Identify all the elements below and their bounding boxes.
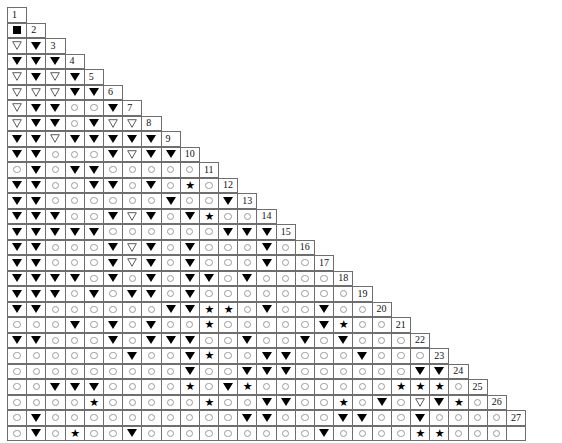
chart-cell[interactable] xyxy=(276,348,296,364)
chart-cell[interactable] xyxy=(161,348,181,364)
chart-cell[interactable] xyxy=(141,286,161,302)
chart-cell[interactable] xyxy=(218,348,238,364)
chart-cell[interactable] xyxy=(237,364,257,380)
chart-cell[interactable] xyxy=(372,395,392,411)
chart-cell[interactable] xyxy=(103,209,123,225)
chart-cell[interactable] xyxy=(65,333,85,349)
chart-cell[interactable] xyxy=(84,209,104,225)
chart-cell[interactable]: ★ xyxy=(180,178,200,194)
chart-cell[interactable] xyxy=(391,348,411,364)
chart-cell[interactable] xyxy=(122,286,142,302)
chart-cell[interactable] xyxy=(26,348,46,364)
chart-cell[interactable] xyxy=(180,317,200,333)
chart-cell[interactable] xyxy=(45,395,65,411)
chart-cell[interactable] xyxy=(237,348,257,364)
chart-cell[interactable] xyxy=(276,271,296,287)
chart-cell[interactable] xyxy=(26,271,46,287)
chart-cell[interactable] xyxy=(199,255,219,271)
chart-cell[interactable] xyxy=(26,209,46,225)
chart-cell[interactable] xyxy=(391,395,411,411)
chart-cell[interactable] xyxy=(84,302,104,318)
chart-cell[interactable] xyxy=(256,395,276,411)
chart-cell[interactable] xyxy=(237,317,257,333)
chart-cell[interactable] xyxy=(26,317,46,333)
chart-cell[interactable] xyxy=(256,348,276,364)
chart-cell[interactable] xyxy=(7,69,27,85)
chart-cell[interactable] xyxy=(103,224,123,240)
chart-cell[interactable] xyxy=(180,271,200,287)
chart-cell[interactable] xyxy=(276,395,296,411)
chart-cell[interactable] xyxy=(103,333,123,349)
chart-cell[interactable] xyxy=(180,209,200,225)
chart-cell[interactable] xyxy=(7,23,27,39)
chart-cell[interactable] xyxy=(7,317,27,333)
chart-cell[interactable] xyxy=(352,333,372,349)
chart-cell[interactable] xyxy=(141,178,161,194)
chart-cell[interactable] xyxy=(26,302,46,318)
chart-cell[interactable] xyxy=(45,69,65,85)
chart-cell[interactable] xyxy=(65,193,85,209)
chart-cell[interactable] xyxy=(26,147,46,163)
chart-cell[interactable] xyxy=(45,364,65,380)
chart-cell[interactable] xyxy=(103,240,123,256)
chart-cell[interactable] xyxy=(429,395,449,411)
chart-cell[interactable] xyxy=(7,395,27,411)
chart-cell[interactable] xyxy=(448,410,468,426)
chart-cell[interactable] xyxy=(237,333,257,349)
chart-cell[interactable] xyxy=(26,178,46,194)
chart-cell[interactable] xyxy=(103,410,123,426)
chart-cell[interactable] xyxy=(218,379,238,395)
chart-cell[interactable] xyxy=(410,348,430,364)
chart-cell[interactable] xyxy=(45,54,65,70)
chart-cell[interactable] xyxy=(237,255,257,271)
chart-cell[interactable] xyxy=(7,410,27,426)
chart-cell[interactable] xyxy=(84,193,104,209)
chart-cell[interactable] xyxy=(218,224,238,240)
chart-cell[interactable] xyxy=(333,410,353,426)
chart-cell[interactable] xyxy=(122,317,142,333)
chart-cell[interactable] xyxy=(352,364,372,380)
chart-cell[interactable] xyxy=(314,302,334,318)
chart-cell[interactable] xyxy=(314,286,334,302)
chart-cell[interactable] xyxy=(84,131,104,147)
chart-cell[interactable] xyxy=(372,410,392,426)
chart-cell[interactable] xyxy=(352,410,372,426)
chart-cell[interactable] xyxy=(295,395,315,411)
chart-cell[interactable] xyxy=(122,395,142,411)
chart-cell[interactable] xyxy=(161,178,181,194)
chart-cell[interactable] xyxy=(237,286,257,302)
chart-cell[interactable] xyxy=(372,333,392,349)
chart-cell[interactable] xyxy=(122,255,142,271)
chart-cell[interactable] xyxy=(65,271,85,287)
chart-cell[interactable] xyxy=(45,85,65,101)
chart-cell[interactable] xyxy=(237,209,257,225)
chart-cell[interactable] xyxy=(26,224,46,240)
chart-cell[interactable] xyxy=(84,116,104,132)
chart-cell[interactable] xyxy=(45,255,65,271)
chart-cell[interactable] xyxy=(84,348,104,364)
chart-cell[interactable] xyxy=(84,317,104,333)
chart-cell[interactable] xyxy=(103,364,123,380)
chart-cell[interactable] xyxy=(103,147,123,163)
chart-cell[interactable] xyxy=(372,379,392,395)
chart-cell[interactable] xyxy=(7,240,27,256)
chart-cell[interactable] xyxy=(84,224,104,240)
chart-cell[interactable] xyxy=(180,193,200,209)
chart-cell[interactable] xyxy=(314,333,334,349)
chart-cell[interactable] xyxy=(65,85,85,101)
chart-cell[interactable] xyxy=(180,348,200,364)
chart-cell[interactable] xyxy=(429,364,449,380)
chart-cell[interactable] xyxy=(122,333,142,349)
chart-cell[interactable] xyxy=(7,38,27,54)
chart-cell[interactable] xyxy=(103,193,123,209)
chart-cell[interactable] xyxy=(372,364,392,380)
chart-cell[interactable] xyxy=(141,224,161,240)
chart-cell[interactable] xyxy=(65,116,85,132)
chart-cell[interactable] xyxy=(26,100,46,116)
chart-cell[interactable] xyxy=(45,224,65,240)
chart-cell[interactable] xyxy=(256,286,276,302)
chart-cell[interactable] xyxy=(26,116,46,132)
chart-cell[interactable] xyxy=(7,100,27,116)
chart-cell[interactable] xyxy=(161,162,181,178)
chart-cell[interactable] xyxy=(256,224,276,240)
